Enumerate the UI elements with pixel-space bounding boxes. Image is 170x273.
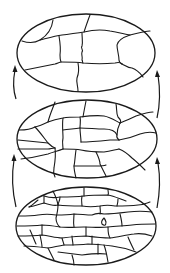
arrow-right-middle-to-top-icon [155,70,160,118]
arrow-left-middle-to-top-icon [13,65,18,99]
arrow-left-bottom-to-middle-icon [12,154,17,207]
level-bottom [16,187,156,265]
level-top-region-boundaries [22,15,150,91]
level-top [17,14,155,92]
segmentation-hierarchy-diagram [0,0,170,273]
level-middle [17,100,157,178]
level-bottom-region-boundaries [17,188,155,265]
arrow-right-bottom-to-middle-icon [155,157,160,208]
level-middle-region-boundaries [18,101,156,178]
